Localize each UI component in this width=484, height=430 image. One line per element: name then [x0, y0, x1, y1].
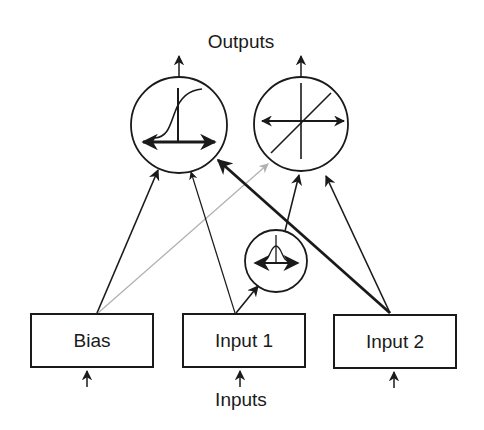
input1-label: Input 1: [215, 330, 273, 352]
bias-label: Bias: [74, 330, 111, 352]
inputs-label: Inputs: [190, 389, 292, 411]
input1-node: Input 1: [182, 313, 306, 368]
outputs-label: Outputs: [190, 31, 292, 53]
input2-node: Input 2: [333, 314, 457, 369]
edge-input2-to-sigmoid: [218, 160, 390, 313]
gaussian-unit: [245, 230, 307, 292]
linear-unit: [254, 77, 348, 171]
edge-input1-to-gaussian: [236, 286, 258, 313]
bias-node: Bias: [30, 313, 154, 368]
sigmoid-unit: [131, 77, 227, 173]
edge-bias-to-linear: [98, 164, 268, 313]
edge-bias-to-sigmoid: [97, 170, 158, 313]
edge-input2-to-linear: [326, 176, 390, 313]
input2-label: Input 2: [366, 331, 424, 353]
edge-input1-to-sigmoid: [191, 172, 235, 313]
